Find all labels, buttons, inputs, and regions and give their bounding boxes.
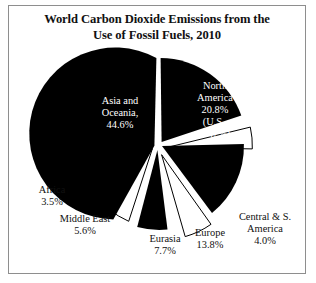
pie-label-asia-oceania-line-2: Oceania, [74, 107, 166, 119]
pie-label-central-south-america-line-2: America [224, 223, 306, 235]
pie-label-central-south-america-line-1: Central & S. [224, 211, 306, 223]
pie-label-north-america-value: 20.8% [176, 104, 254, 116]
pie-label-north-america: North America 20.8% (U.S., 17.7%) [176, 80, 254, 140]
pie-label-africa-line-1: Africa [20, 184, 84, 196]
pie-label-africa: Africa 3.5% [20, 184, 84, 208]
pie-label-north-america-sub-line-2: 17.7%) [176, 128, 254, 140]
pie-label-middle-east-value: 5.6% [43, 225, 127, 237]
pie-label-africa-value: 3.5% [20, 196, 84, 208]
pie-label-middle-east: Middle East 5.6% [43, 213, 127, 237]
pie-label-asia-oceania-line-1: Asia and [74, 95, 166, 107]
pie-label-central-south-america: Central & S. America 4.0% [224, 211, 306, 247]
pie-label-north-america-sub-line-1: (U.S., [176, 116, 254, 128]
pie-chart-figure: World Carbon Dioxide Emissions from the … [0, 0, 316, 283]
pie-label-middle-east-line-1: Middle East [43, 213, 127, 225]
pie-label-asia-oceania: Asia and Oceania, 44.6% [74, 95, 166, 131]
pie-label-north-america-line-1: North [176, 80, 254, 92]
pie-label-central-south-america-value: 4.0% [224, 235, 306, 247]
pie-label-north-america-line-2: America [176, 92, 254, 104]
pie-label-asia-oceania-value: 44.6% [74, 119, 166, 131]
